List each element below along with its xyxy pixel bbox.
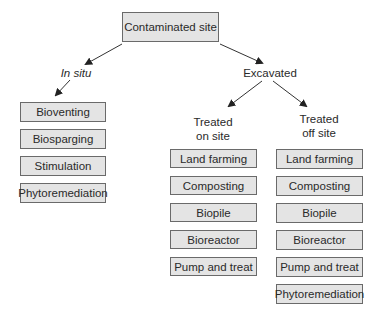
onsite-method-composting: Composting [170, 176, 257, 195]
arrow-excavated-to-offsite [273, 81, 306, 106]
onsite-method-land-farming: Land farming [170, 149, 257, 168]
onsite-method-pump-and-treat: Pump and treat [170, 257, 257, 276]
insitu-method-biosparging: Biosparging [20, 129, 106, 149]
insitu-method-bioventing: Bioventing [20, 102, 106, 122]
insitu-method-phytoremediation: Phytoremediation [20, 183, 106, 203]
onsite-label-line2: on site [183, 129, 243, 143]
onsite-method-biopile: Biopile [170, 203, 257, 222]
arrow-root-to-excavated [220, 44, 262, 63]
offsite-label-line1: Treated [289, 112, 349, 126]
insitu-method-stimulation: Stimulation [20, 156, 106, 176]
arrow-excavated-to-onsite [229, 81, 262, 106]
offsite-method-phytoremediation: Phytoremediation [276, 284, 363, 304]
offsite-method-bioreactor: Bioreactor [276, 230, 363, 250]
offsite-method-biopile: Biopile [276, 203, 363, 223]
offsite-method-land-farming: Land farming [276, 149, 363, 169]
insitu-label: In situ [56, 66, 96, 80]
offsite-method-pump-and-treat: Pump and treat [276, 257, 363, 277]
arrow-root-to-insitu [86, 44, 122, 64]
root-node: Contaminated site [122, 12, 219, 42]
excavated-label: Excavated [235, 66, 305, 80]
offsite-label-line2: off site [289, 126, 349, 140]
onsite-method-bioreactor: Bioreactor [170, 230, 257, 249]
onsite-label-line1: Treated [183, 115, 243, 129]
arrow-insitu-to-methods [56, 80, 70, 95]
offsite-method-composting: Composting [276, 176, 363, 196]
